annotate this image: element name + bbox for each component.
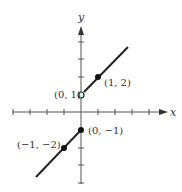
label-neg1-neg2: (−1, −2) [17,139,61,150]
graph: x y (0, 1) (1, 2) (0, −1) (−1, −2) [0,0,182,192]
label-1-2: (1, 2) [104,77,131,88]
left-branch-line [36,130,81,177]
y-axis-arrow-icon [78,26,84,35]
x-axis-arrow-icon [159,109,168,115]
y-axis-label: y [77,11,85,24]
label-0-1: (0, 1) [54,89,81,100]
x-axis-label: x [170,106,177,119]
point-1-2 [95,74,101,80]
point-neg1-neg2 [61,145,67,151]
label-0-neg1: (0, −1) [88,125,123,136]
x-axis: x [12,106,177,119]
point-0-neg1 [78,127,84,133]
